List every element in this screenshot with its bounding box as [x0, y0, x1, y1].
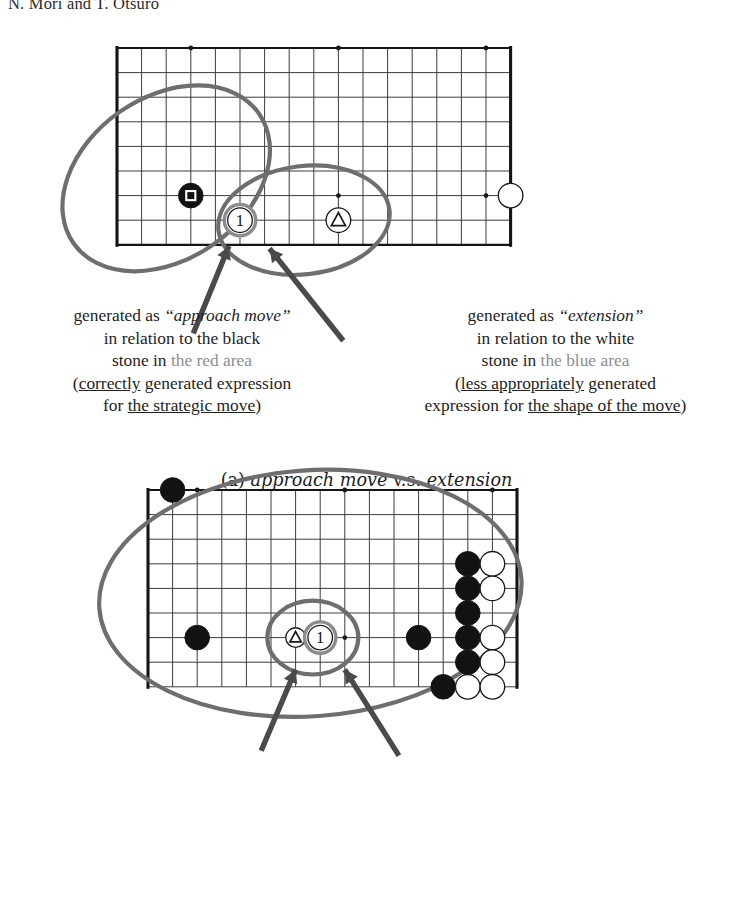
caption-a-right-seg: the blue area [541, 350, 630, 370]
caption-a-right-seg: in relation to the white [477, 328, 634, 348]
board-b-arrow-shaft [261, 670, 295, 751]
caption-a-right-seg: generated as [468, 305, 559, 325]
board-b-stone [455, 576, 480, 601]
caption-a-right: generated as “extension”in relation to t… [378, 304, 733, 417]
caption-a-right-seg: expression for [425, 395, 528, 415]
go-board-b: 1 [114, 456, 551, 783]
board-a-stone-mark-number: 1 [236, 211, 244, 230]
board-b-arrows [261, 670, 399, 756]
running-head: N. Mori and T. Otsuro [8, 0, 159, 14]
caption-a-left-seg: generated as [73, 305, 164, 325]
board-b-stone [286, 628, 306, 648]
board-b-stone [480, 625, 505, 650]
board-b-stone-white [480, 674, 505, 699]
board-a-stone-black [178, 183, 203, 208]
board-b-stone-white [480, 650, 505, 675]
caption-a-left-seg: in relation to the black [104, 328, 260, 348]
caption-a-right-line-5: expression for the shape of the move) [378, 394, 733, 417]
board-b-star-point [342, 488, 347, 493]
board-a-star-point [484, 46, 489, 51]
board-b-stone-white [455, 674, 480, 699]
figure-invasion-vs-attachment: 1 generated as “invasion”in relation to … [0, 476, 733, 911]
board-a-star-point [336, 193, 341, 198]
caption-a-left-seg: stone in [112, 350, 171, 370]
caption-a-right-seg: the shape of the move [528, 395, 681, 415]
caption-a-left-seg: correctly [79, 373, 141, 393]
board-b-stone: 1 [305, 622, 336, 653]
caption-a-left-seg: the strategic move [128, 395, 255, 415]
caption-a-left-seg: the red area [171, 350, 252, 370]
caption-a-left-line-2: in relation to the black [2, 327, 362, 350]
board-b-stone-white [480, 576, 505, 601]
caption-a-right-seg: ) [681, 395, 687, 415]
board-a-annotation-ellipses [27, 47, 396, 310]
caption-a-left-line-4: (correctly generated expression [2, 372, 362, 395]
board-b-stone [455, 601, 480, 626]
board-b-stone-mark-number: 1 [316, 628, 324, 647]
caption-a-right-line-1: generated as “extension” [378, 304, 733, 327]
board-a-svg: 1 [83, 14, 545, 341]
caption-a-right-line-4: (less appropriately generated [378, 372, 733, 395]
board-b-stone-white [480, 625, 505, 650]
board-b-stone-black [455, 650, 480, 675]
caption-a-right-seg: “extension” [558, 305, 643, 325]
board-a-star-point [188, 46, 193, 51]
board-b-svg: 1 [114, 456, 551, 783]
board-b-stone [480, 650, 505, 675]
board-a-stone-white [498, 183, 523, 208]
board-a-star-point [484, 193, 489, 198]
board-b-stone-black [160, 478, 185, 503]
board-a-stones: 1 [178, 183, 522, 236]
caption-a-left-seg: ) [255, 395, 261, 415]
caption-a-right-line-2: in relation to the white [378, 327, 733, 350]
board-b-stone [431, 674, 456, 699]
board-a-stone [326, 208, 351, 233]
caption-a-left-line-1: generated as “approach move” [2, 304, 362, 327]
board-b-stone-black [406, 625, 431, 650]
caption-a-left-seg: for [103, 395, 128, 415]
board-b-star-point [490, 488, 495, 493]
board-a-star-point [336, 46, 341, 51]
board-b-stone [185, 625, 210, 650]
board-b-stone-black [431, 674, 456, 699]
caption-a-right-seg: generated [584, 373, 656, 393]
board-a-stone [498, 183, 523, 208]
board-b-stone-black [455, 576, 480, 601]
board-b-stone-black [455, 551, 480, 576]
board-b-stone-black [185, 625, 210, 650]
board-a-grid [117, 48, 511, 245]
board-b-stone [455, 625, 480, 650]
board-b-stone [160, 478, 185, 503]
board-b-stone [455, 551, 480, 576]
caption-a-right-seg: less appropriately [461, 373, 584, 393]
board-b-stone-black [455, 625, 480, 650]
board-b-star-point [342, 635, 347, 640]
board-b-stone [455, 674, 480, 699]
board-b-stone [480, 576, 505, 601]
board-a-stone: 1 [224, 204, 255, 235]
figure-approach-move-vs-extension: 1 generated as “approach move”in relatio… [0, 36, 733, 461]
caption-a-left-line-3: stone in the red area [2, 349, 362, 372]
caption-a-left-line-5: for the strategic move) [2, 394, 362, 417]
caption-a-right-seg: stone in [482, 350, 541, 370]
board-b-stone [406, 625, 431, 650]
board-b-stone-black [455, 601, 480, 626]
caption-a-left-seg: generated expression [140, 373, 291, 393]
go-board-a: 1 [83, 14, 545, 341]
caption-a-right-line-3: stone in the blue area [378, 349, 733, 372]
board-b-stone [455, 650, 480, 675]
caption-a-left: generated as “approach move”in relation … [2, 304, 362, 417]
board-b-stone [480, 674, 505, 699]
caption-a-left-seg: “approach move” [164, 305, 290, 325]
board-a-stone [178, 183, 203, 208]
board-b-stone [480, 551, 505, 576]
board-b-stone-white [480, 551, 505, 576]
